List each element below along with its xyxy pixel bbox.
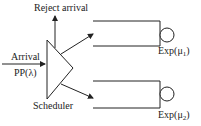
queue-1-buffer [93, 21, 160, 46]
arrival-label: Arrival [11, 52, 40, 62]
scheduler-label: Scheduler [33, 101, 73, 111]
server-2-label: Exp(μ2) [158, 110, 190, 122]
queue-2-buffer [93, 81, 160, 108]
server-1 [160, 28, 174, 42]
reject-label: Reject arrival [34, 3, 88, 13]
server-1-label: Exp(μ1) [158, 46, 190, 58]
queue-diagram [0, 0, 201, 126]
route-arrow-1 [61, 34, 93, 54]
process-label: PP(λ) [14, 68, 37, 78]
route-arrow-2 [61, 84, 93, 98]
server-2 [160, 87, 174, 101]
